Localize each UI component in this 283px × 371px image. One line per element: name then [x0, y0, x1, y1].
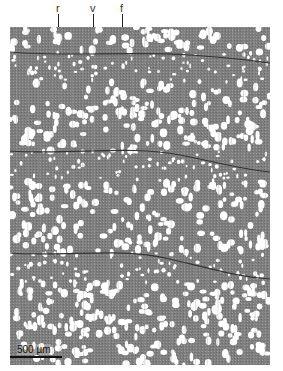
wood-cross-section-micrograph [10, 27, 270, 365]
micrograph-image [10, 27, 270, 365]
scale-bar-label: 500 µm [17, 344, 51, 355]
label-fiber: f [120, 2, 123, 14]
label-vessel: v [90, 2, 96, 14]
label-ray: r [56, 2, 60, 14]
scale-bar [10, 356, 62, 358]
